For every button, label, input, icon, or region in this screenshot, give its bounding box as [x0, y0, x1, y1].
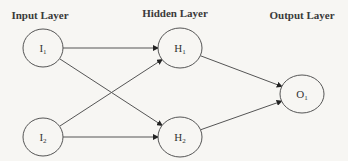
node-h2: H2	[158, 117, 202, 157]
hidden-layer-label: Hidden Layer	[142, 7, 208, 19]
nodes-group: I1I2H1H2O1	[23, 28, 324, 157]
node-o1: O1	[280, 75, 324, 113]
diagram-svg: I1I2H1H2O1 Input Layer Hidden Layer Outp…	[0, 0, 348, 161]
output-layer-label: Output Layer	[269, 9, 334, 21]
layer-labels-group: Input Layer Hidden Layer Output Layer	[11, 7, 334, 21]
edge-h1-to-o1	[200, 56, 281, 87]
edge-h2-to-o1	[201, 101, 282, 130]
node-i2: I2	[23, 118, 63, 156]
input-layer-label: Input Layer	[11, 9, 68, 21]
node-h1: H1	[158, 28, 202, 68]
neural-network-diagram: I1I2H1H2O1 Input Layer Hidden Layer Outp…	[0, 0, 348, 161]
edge-i2-to-h1	[60, 60, 163, 127]
edge-i1-to-h2	[60, 59, 163, 126]
node-i1: I1	[23, 29, 63, 67]
